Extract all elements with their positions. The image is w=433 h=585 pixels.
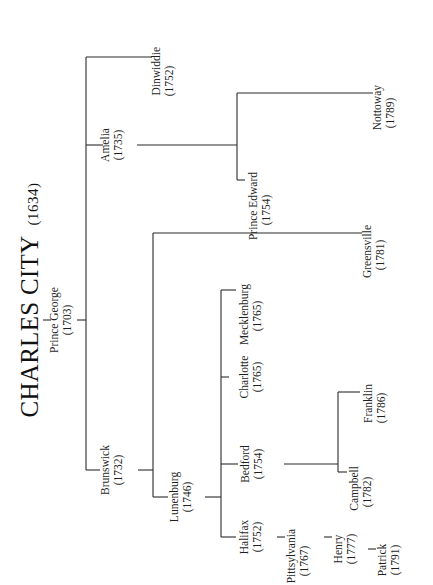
node-year: (1786) [375, 393, 388, 424]
node-name: Franklin [362, 384, 374, 423]
node-year: (1781) [374, 240, 387, 271]
node-year: (1765) [251, 362, 264, 393]
node-lunenburg: Lunenburg (1746) [168, 472, 194, 523]
node-name: Lunenburg [168, 472, 181, 523]
node-franklin: Franklin (1786) [362, 384, 388, 424]
node-name: Dinwiddie [150, 47, 162, 96]
node-name: Halifax [238, 520, 250, 555]
node-year: (1735) [112, 130, 125, 161]
node-pittsylvania: Pittsylvania (1767) [285, 529, 311, 583]
node-name: Amelia [99, 128, 111, 162]
node-amelia: Amelia (1735) [99, 128, 125, 162]
node-name: Greensville [361, 225, 373, 278]
title-charles-city: CHARLES CITY (1634) [16, 182, 43, 417]
node-year: (1752) [163, 66, 176, 97]
node-nottoway: Nottoway (1789) [371, 85, 397, 131]
node-greensville: Greensville (1781) [361, 225, 387, 278]
node-henry: Henry (1777) [332, 534, 358, 565]
node-name: Prince George [48, 287, 61, 353]
node-brunswick: Brunswick (1732) [99, 445, 125, 495]
node-name: Brunswick [99, 445, 111, 495]
node-charlotte: Charlotte (1765) [238, 356, 264, 399]
county-formation-tree: CHARLES CITY (1634) Prince George (1703)… [0, 0, 433, 585]
node-prince-george: Prince George (1703) [48, 287, 74, 353]
node-year: (1777) [345, 534, 358, 565]
node-name: Mecklenburg [238, 284, 251, 345]
node-year: (1752) [251, 522, 264, 553]
title-name: CHARLES CITY [16, 235, 43, 417]
title-year: (1634) [25, 182, 42, 225]
node-name: Prince Edward [247, 172, 259, 240]
node-year: (1791) [389, 545, 402, 576]
node-mecklenburg: Mecklenburg (1765) [238, 284, 264, 345]
node-name: Henry [332, 534, 345, 563]
node-bedford: Bedford (1754) [239, 445, 265, 483]
node-year: (1767) [298, 546, 311, 577]
node-name: Nottoway [371, 85, 384, 131]
node-name: Pittsylvania [285, 529, 298, 583]
node-year: (1765) [251, 301, 264, 332]
svg-text:CHARLES CITY (1634): CHARLES CITY (1634) [16, 182, 43, 417]
node-year: (1789) [384, 98, 397, 129]
node-campbell: Campbell (1782) [348, 466, 374, 511]
node-prince-edward: Prince Edward (1754) [247, 172, 273, 240]
node-name: Campbell [348, 466, 361, 511]
node-year: (1782) [361, 477, 374, 508]
node-name: Patrick [376, 543, 388, 576]
node-year: (1703) [61, 305, 74, 336]
node-patrick: Patrick (1791) [376, 543, 402, 576]
node-year: (1732) [112, 455, 125, 486]
node-name: Charlotte [238, 356, 250, 399]
node-halifax: Halifax (1752) [238, 520, 264, 555]
node-year: (1754) [252, 449, 265, 480]
node-name: Bedford [239, 445, 251, 483]
node-year: (1746) [181, 482, 194, 513]
node-year: (1754) [260, 195, 273, 226]
node-dinwiddie: Dinwiddie (1752) [150, 47, 176, 96]
